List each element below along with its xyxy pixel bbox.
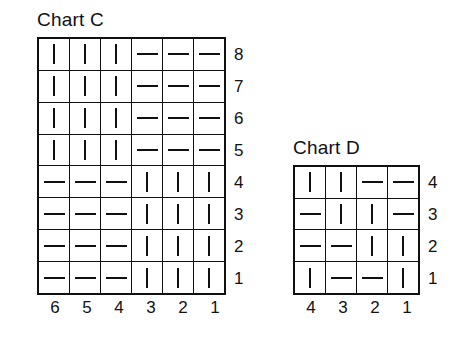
- column-label: 5: [71, 298, 103, 318]
- chart-row: [38, 230, 225, 262]
- knit-stitch-icon: [163, 262, 194, 294]
- row-label: 1: [234, 263, 250, 295]
- row-label: 4: [234, 167, 250, 199]
- chart-c-row-labels: 87654321: [234, 37, 250, 295]
- purl-stitch-icon: [294, 230, 326, 262]
- purl-stitch-icon: [132, 134, 163, 166]
- row-label: 3: [428, 199, 444, 231]
- knit-stitch-icon: [38, 38, 70, 70]
- row-label: 8: [234, 39, 250, 71]
- chart-c-container: Chart C 87654321 654321: [37, 8, 250, 318]
- purl-stitch-icon: [326, 262, 357, 294]
- chart-c-grid-body: [38, 38, 225, 294]
- chart-row: [38, 134, 225, 166]
- purl-stitch-icon: [163, 38, 194, 70]
- knit-stitch-icon: [101, 70, 132, 102]
- purl-stitch-icon: [357, 262, 388, 294]
- knit-stitch-icon: [132, 198, 163, 230]
- purl-stitch-icon: [38, 230, 70, 262]
- purl-stitch-icon: [38, 198, 70, 230]
- purl-stitch-icon: [163, 134, 194, 166]
- column-label: 6: [39, 298, 71, 318]
- chart-row: [38, 70, 225, 102]
- knit-stitch-icon: [38, 102, 70, 134]
- knit-stitch-icon: [38, 70, 70, 102]
- knit-stitch-icon: [388, 262, 420, 294]
- chart-row: [294, 166, 419, 198]
- chart-d-grid-body: [294, 166, 419, 294]
- knit-stitch-icon: [132, 230, 163, 262]
- row-label: 3: [234, 199, 250, 231]
- purl-stitch-icon: [132, 70, 163, 102]
- purl-stitch-icon: [194, 38, 226, 70]
- chart-row: [294, 198, 419, 230]
- purl-stitch-icon: [163, 70, 194, 102]
- knit-stitch-icon: [326, 198, 357, 230]
- column-label: 4: [295, 298, 327, 318]
- column-label: 1: [199, 298, 231, 318]
- knit-stitch-icon: [70, 102, 101, 134]
- chart-row: [38, 262, 225, 294]
- chart-d-container: Chart D 4321 4321: [293, 136, 444, 318]
- knit-stitch-icon: [294, 262, 326, 294]
- knit-stitch-icon: [388, 230, 420, 262]
- purl-stitch-icon: [388, 198, 420, 230]
- knit-stitch-icon: [101, 102, 132, 134]
- knit-stitch-icon: [194, 198, 226, 230]
- chart-c-grid-area: 87654321: [37, 37, 250, 295]
- purl-stitch-icon: [101, 166, 132, 198]
- chart-row: [294, 230, 419, 262]
- chart-d-title: Chart D: [293, 136, 444, 160]
- knit-stitch-icon: [163, 230, 194, 262]
- chart-c-grid: [37, 37, 226, 295]
- knit-stitch-icon: [194, 230, 226, 262]
- knit-stitch-icon: [101, 38, 132, 70]
- knit-stitch-icon: [70, 134, 101, 166]
- knit-stitch-icon: [70, 38, 101, 70]
- chart-d-column-labels: 4321: [293, 298, 444, 318]
- column-label: 3: [135, 298, 167, 318]
- column-label: 1: [391, 298, 423, 318]
- knit-stitch-icon: [132, 262, 163, 294]
- row-label: 4: [428, 167, 444, 199]
- column-label: 3: [327, 298, 359, 318]
- purl-stitch-icon: [70, 230, 101, 262]
- knit-stitch-icon: [163, 166, 194, 198]
- purl-stitch-icon: [70, 166, 101, 198]
- purl-stitch-icon: [38, 166, 70, 198]
- row-label: 1: [428, 263, 444, 295]
- purl-stitch-icon: [132, 38, 163, 70]
- column-label: 2: [167, 298, 199, 318]
- chart-row: [38, 198, 225, 230]
- chart-row: [294, 262, 419, 294]
- knit-stitch-icon: [70, 70, 101, 102]
- knit-stitch-icon: [294, 166, 326, 198]
- chart-row: [38, 102, 225, 134]
- column-label: 2: [359, 298, 391, 318]
- row-label: 7: [234, 71, 250, 103]
- purl-stitch-icon: [70, 262, 101, 294]
- row-label: 5: [234, 135, 250, 167]
- knit-stitch-icon: [194, 166, 226, 198]
- purl-stitch-icon: [194, 70, 226, 102]
- knit-stitch-icon: [101, 134, 132, 166]
- knit-stitch-icon: [357, 198, 388, 230]
- purl-stitch-icon: [388, 166, 420, 198]
- knit-stitch-icon: [326, 166, 357, 198]
- purl-stitch-icon: [70, 198, 101, 230]
- purl-stitch-icon: [294, 198, 326, 230]
- chart-d-row-labels: 4321: [428, 165, 444, 295]
- purl-stitch-icon: [357, 166, 388, 198]
- column-label: 4: [103, 298, 135, 318]
- purl-stitch-icon: [326, 230, 357, 262]
- purl-stitch-icon: [101, 262, 132, 294]
- chart-c-column-labels: 654321: [37, 298, 250, 318]
- purl-stitch-icon: [101, 230, 132, 262]
- row-label: 2: [234, 231, 250, 263]
- row-label: 6: [234, 103, 250, 135]
- knit-stitch-icon: [38, 134, 70, 166]
- chart-d-grid: [293, 165, 420, 295]
- chart-row: [38, 38, 225, 70]
- knit-stitch-icon: [357, 230, 388, 262]
- purl-stitch-icon: [38, 262, 70, 294]
